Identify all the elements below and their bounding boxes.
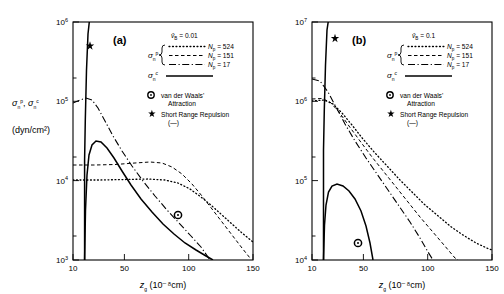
panel-b-xtick-2: 100 <box>421 264 435 273</box>
panel-b-legend-label-np524: Np = 524 <box>447 43 473 52</box>
panel-b-ytick-3: 104 <box>295 255 307 266</box>
panel-a-marker-vdw-dot <box>177 214 179 216</box>
panel-a-xtick-0: 10 <box>69 264 78 273</box>
panel-b: 107 106 105 104 10 50 100 150 zg (10⁻⁸cm… <box>295 17 499 292</box>
panel-b-legend-vb: v̄B = 0.1 <box>412 32 435 41</box>
panel-b-xtick-0: 10 <box>308 264 317 273</box>
panel-a-ytick-0: 106 <box>56 17 68 28</box>
panel-a-curve-np17 <box>73 98 210 260</box>
panel-b-ytick-0: 107 <box>295 17 307 28</box>
panel-b-ytick-2: 105 <box>295 175 307 186</box>
panel-a-legend-label-np17: Np = 17 <box>208 61 231 70</box>
panel-b-legend-sigma-p: σnp <box>387 50 398 62</box>
panel-b-legend: v̄B = 0.1 σnp Np = 524 Np = 151 Np = 17 … <box>387 32 473 127</box>
panel-b-ytick-1: 106 <box>295 96 307 107</box>
panel-a-legend-vdw-line2: Attraction <box>168 100 196 107</box>
panel-b-legend-brace <box>398 45 404 65</box>
panel-b-legend-sigma-c: σnc <box>387 70 398 82</box>
figure-root: 106 105 104 103 10 50 100 150 zg (10⁻⁸cm… <box>0 0 504 294</box>
panel-b-label: (b) <box>352 34 366 46</box>
panel-a-curve-sigma-c <box>85 141 213 260</box>
panel-a-legend: v̄B = 0.01 σnp Np = 524 Np = 151 Np = 17 <box>148 32 234 127</box>
panel-a-xtick-2: 100 <box>182 264 196 273</box>
panel-a-legend-star-icon <box>148 110 155 117</box>
panel-a-label: (a) <box>113 34 127 46</box>
panel-b-marker-repulsion <box>331 34 339 43</box>
panel-b-legend-vdw-line1: van der Waals' <box>400 92 443 99</box>
panel-b-curve-np524 <box>312 100 492 250</box>
panel-a-legend-circle-dot-icon <box>150 94 152 96</box>
panel-b-curve-sigma-c <box>324 184 374 260</box>
panel-b-marker-vdw-dot <box>357 242 359 244</box>
panel-a-legend-vb: v̄B = 0.01 <box>171 32 198 41</box>
panel-b-legend-label-np17: Np = 17 <box>447 61 470 70</box>
panel-b-xaxis-title: zg (10⁻⁸cm) <box>378 280 426 292</box>
panel-a-legend-sigma-c: σnc <box>148 70 159 82</box>
panel-b-curve-np151 <box>312 99 458 261</box>
panel-b-x-ticks <box>312 254 492 260</box>
panel-b-xtick-1: 50 <box>359 264 368 273</box>
panel-a-legend-label-np151: Np = 151 <box>208 52 234 61</box>
panel-b-legend-vdw-line2: Attraction <box>407 100 435 107</box>
panel-b-legend-label-np151: Np = 151 <box>447 52 473 61</box>
panel-a-legend-repulsion-line2: (—) <box>168 119 179 127</box>
panel-a-legend-brace <box>159 45 165 65</box>
panel-a-legend-vdw-line1: van der Waals' <box>161 92 204 99</box>
panel-b-legend-repulsion-line1: Short Range Repulsion <box>400 111 469 119</box>
panel-b-legend-star-icon <box>387 110 394 117</box>
panel-a-legend-label-np524: Np = 524 <box>208 43 234 52</box>
panel-a-curve-np524 <box>73 179 253 242</box>
panel-b-legend-circle-dot-icon <box>389 94 391 96</box>
panel-b-xtick-3: 150 <box>485 264 499 273</box>
panel-a-xaxis-title: zg (10⁻⁸cm) <box>139 280 187 292</box>
panel-a-xtick-3: 150 <box>246 264 260 273</box>
panel-b-y-ticks <box>312 22 318 260</box>
panel-a: 106 105 104 103 10 50 100 150 zg (10⁻⁸cm… <box>56 17 260 292</box>
y-axis-title: σnp, σnc (dyn/cm²) <box>12 98 50 136</box>
panel-a-ytick-1: 105 <box>56 96 68 107</box>
panel-b-legend-repulsion-line2: (—) <box>407 119 418 127</box>
panel-a-curve-np151 <box>73 162 250 258</box>
panel-a-xtick-1: 50 <box>120 264 129 273</box>
y-axis-title-symbols: σnp, σnc <box>12 98 39 110</box>
y-axis-title-units: (dyn/cm²) <box>12 125 50 135</box>
panel-a-ytick-3: 103 <box>56 255 68 266</box>
panel-a-legend-repulsion-line1: Short Range Repulsion <box>161 111 230 119</box>
panel-a-y-ticks <box>73 22 79 260</box>
panel-a-x-ticks <box>73 254 253 260</box>
panel-a-legend-sigma-p: σnp <box>148 50 159 62</box>
figure-svg: 106 105 104 103 10 50 100 150 zg (10⁻⁸cm… <box>0 0 504 294</box>
panel-a-ytick-2: 104 <box>56 175 68 186</box>
